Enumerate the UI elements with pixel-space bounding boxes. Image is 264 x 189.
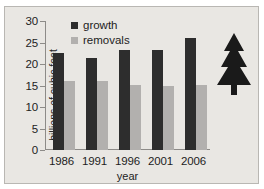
bar-growth	[185, 38, 196, 150]
bar-removals	[130, 85, 141, 150]
bar-group: 1991	[78, 21, 111, 150]
bar-group: 2001	[144, 21, 177, 150]
pine-tree-icon	[213, 31, 255, 97]
y-tick-label: 10	[26, 101, 38, 113]
y-tick-label: 30	[26, 15, 38, 27]
x-tick-label: 1986	[49, 155, 74, 167]
bar-group: 2006	[177, 21, 210, 150]
bar-removals	[163, 86, 174, 151]
bar-growth	[152, 50, 163, 150]
chart-figure: billions of cubic feet growth removals 0…	[4, 6, 259, 184]
bar-growth	[119, 50, 130, 150]
bar-growth	[86, 58, 97, 150]
bar-group: 1996	[111, 21, 144, 150]
y-tick-label: 20	[26, 58, 38, 70]
y-tick-label: 5	[32, 123, 38, 135]
bar-growth	[53, 53, 64, 150]
y-tick-label: 25	[26, 37, 38, 49]
x-tick-label: 1996	[115, 155, 140, 167]
bar-removals	[64, 81, 75, 150]
bar-removals	[97, 81, 108, 150]
bar-removals	[196, 85, 207, 150]
x-tick-label: 1991	[82, 155, 107, 167]
x-tick-label: 2001	[148, 155, 173, 167]
plot-area: 051015202530 19861991199620012006	[45, 21, 210, 150]
y-tick-label: 0	[32, 144, 38, 156]
y-tick	[40, 150, 45, 151]
y-tick-label: 15	[26, 80, 38, 92]
bar-group: 1986	[45, 21, 78, 150]
x-tick-label: 2006	[181, 155, 206, 167]
x-axis-title: year	[45, 170, 210, 182]
